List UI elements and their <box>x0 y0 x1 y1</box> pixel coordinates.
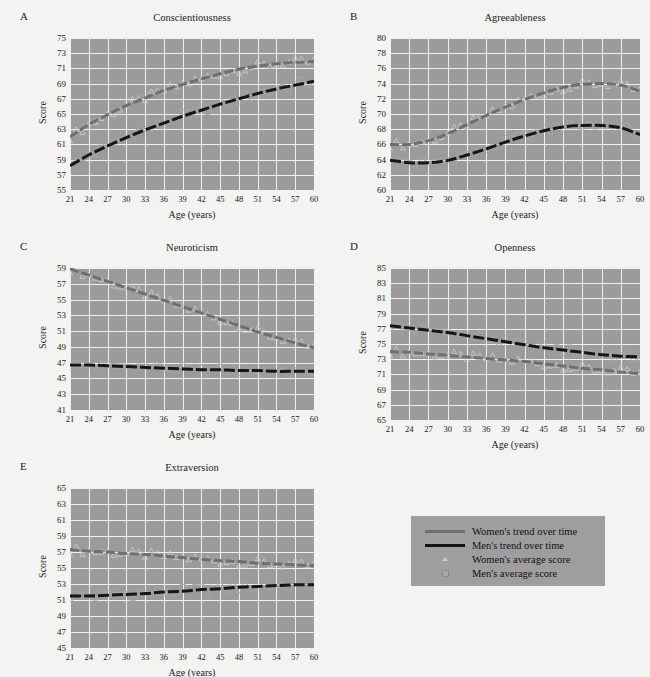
average-score-marker <box>638 357 640 362</box>
average-score-marker <box>299 365 304 370</box>
legend-line-glyph <box>425 530 465 533</box>
legend-label: Men's average score <box>472 568 557 579</box>
panel-letter-e: E <box>20 460 27 472</box>
panel-title-c: Neuroticism <box>70 242 314 253</box>
average-score-marker <box>452 335 457 340</box>
x-axis-label: Age (years) <box>390 439 640 450</box>
legend-item-3: Men's average score <box>425 566 557 580</box>
average-score-marker <box>400 146 405 151</box>
average-score-marker <box>452 160 457 165</box>
average-score-marker <box>560 89 565 94</box>
panel-title-b: Agreeableness <box>390 12 640 23</box>
average-score-marker <box>218 364 223 369</box>
series-layer <box>70 488 314 648</box>
y-axis-label: Score <box>357 37 368 189</box>
x-axis-label: Age (years) <box>70 667 314 677</box>
x-tick-label: 48 <box>235 652 244 662</box>
x-tick-label: 57 <box>291 652 300 662</box>
legend-marker-glyph <box>442 557 448 561</box>
average-score-marker <box>236 563 241 568</box>
panel-letter-c: C <box>20 240 28 252</box>
average-score-marker <box>567 345 572 350</box>
average-score-marker <box>299 578 304 583</box>
average-score-marker <box>70 551 73 556</box>
average-score-marker <box>503 136 508 141</box>
x-tick-label: 51 <box>578 424 587 434</box>
x-tick-label: 36 <box>160 194 169 204</box>
plot-area-b <box>390 38 640 190</box>
chart-panel-b: BAgreeableness60626466687072747678802124… <box>338 8 650 238</box>
legend: Women's trend over timeMen's trend over … <box>411 516 605 586</box>
x-tick-label: 42 <box>197 652 206 662</box>
x-tick-label: 60 <box>310 652 319 662</box>
average-score-marker <box>452 349 457 354</box>
average-score-marker <box>293 337 298 342</box>
average-score-marker <box>205 591 210 596</box>
x-tick-label: 54 <box>272 194 281 204</box>
series-layer <box>70 38 314 190</box>
x-tick-label: 45 <box>216 414 225 424</box>
average-score-marker <box>180 110 185 115</box>
x-tick-label: 36 <box>482 424 491 434</box>
x-tick-label: 51 <box>253 652 262 662</box>
average-score-marker <box>625 367 630 372</box>
legend-label: Men's trend over time <box>472 540 564 551</box>
figure-root: AConscientiousness5557596163656769717375… <box>0 0 650 677</box>
average-score-marker <box>255 326 260 331</box>
y-axis-label: Score <box>357 267 368 419</box>
x-tick-label: 33 <box>463 424 472 434</box>
legend-item-2: Women's average score <box>425 552 570 566</box>
x-tick-label: 24 <box>85 414 94 424</box>
panel-letter-b: B <box>350 10 358 22</box>
average-score-marker <box>74 544 79 549</box>
average-score-marker <box>400 353 405 358</box>
average-score-marker <box>287 586 292 591</box>
average-score-marker <box>529 347 534 352</box>
x-tick-label: 33 <box>141 414 150 424</box>
x-tick-label: 60 <box>636 424 645 434</box>
x-tick-label: 39 <box>178 194 187 204</box>
x-tick-label: 39 <box>501 424 510 434</box>
x-tick-label: 54 <box>597 424 606 434</box>
average-score-marker <box>205 110 210 115</box>
trend-line-women <box>390 84 640 145</box>
average-score-marker <box>299 78 304 83</box>
x-tick-label: 30 <box>443 424 452 434</box>
average-score-marker <box>180 363 185 368</box>
average-score-marker <box>205 371 210 376</box>
panel-title-e: Extraversion <box>70 462 314 473</box>
x-tick-label: 60 <box>310 194 319 204</box>
trend-line-women <box>70 269 314 348</box>
trend-line-men <box>390 125 640 163</box>
x-tick-label: 48 <box>235 414 244 424</box>
trend-line-men <box>70 81 314 165</box>
x-tick-label: 42 <box>520 424 529 434</box>
y-axis-label: Score <box>37 487 48 647</box>
average-score-marker <box>503 335 508 340</box>
average-score-marker <box>243 581 248 586</box>
legend-marker-glyph <box>442 570 449 577</box>
average-score-marker <box>580 78 585 83</box>
square-marker-men <box>425 566 465 580</box>
average-score-marker <box>130 547 135 552</box>
series-layer <box>70 268 314 410</box>
y-axis-label: Score <box>37 37 48 189</box>
average-score-marker <box>237 99 242 104</box>
average-score-marker <box>529 136 534 141</box>
average-score-marker <box>293 558 298 563</box>
x-tick-label: 21 <box>66 414 75 424</box>
average-score-marker <box>560 368 565 373</box>
x-tick-label: 45 <box>216 652 225 662</box>
average-score-marker <box>452 124 457 129</box>
average-score-marker <box>130 137 135 142</box>
x-tick-label: 42 <box>520 194 529 204</box>
average-score-marker <box>541 125 546 130</box>
average-score-marker <box>218 583 223 588</box>
average-score-marker <box>255 59 260 64</box>
legend-item-0: Women's trend over time <box>425 524 577 538</box>
trend-line-men <box>70 365 314 371</box>
x-tick-label: 39 <box>501 194 510 204</box>
x-tick-label: 36 <box>160 414 169 424</box>
x-tick-label: 54 <box>597 194 606 204</box>
x-tick-label: 36 <box>160 652 169 662</box>
